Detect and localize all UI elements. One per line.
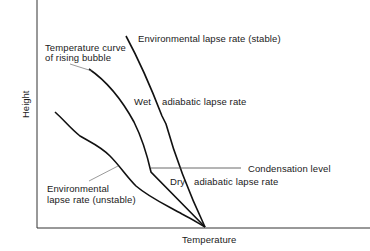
bubble-curve-label-line2: of rising bubble: [45, 52, 111, 63]
dry-adiabatic-label: adiabatic lapse rate: [194, 176, 278, 187]
wet-label: Wet: [134, 96, 151, 107]
unstable-leader-line: [89, 166, 118, 181]
unstable-lapse-label-line1: Environmental: [47, 183, 109, 194]
y-axis-label: Height: [20, 91, 31, 118]
bubble-leader-line: [70, 64, 92, 71]
unstable-lapse-curve: [55, 112, 205, 227]
dry-label: Dry: [170, 176, 185, 187]
condensation-level-label: Condensation level: [248, 163, 331, 174]
wet-adiabatic-label: adiabatic lapse rate: [162, 96, 246, 107]
stable-lapse-label: Environmental lapse rate (stable): [138, 33, 281, 44]
unstable-lapse-label-line2: lapse rate (unstable): [47, 194, 136, 205]
x-axis-label: Temperature: [182, 234, 236, 245]
